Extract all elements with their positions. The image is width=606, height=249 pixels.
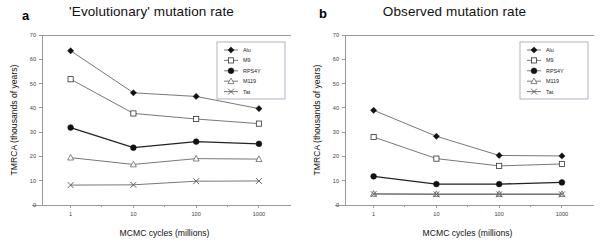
y-tick-label: 20 xyxy=(333,153,339,159)
legend-item-label: RPS4Y xyxy=(546,68,564,74)
x-tick-label: 1000 xyxy=(253,211,265,217)
data-point-marker-diamond xyxy=(559,153,565,159)
data-point-marker-square xyxy=(371,134,376,139)
y-tick-label: 60 xyxy=(333,56,339,62)
panel-a: a 'Evolutionary' mutation rate 010203040… xyxy=(0,0,303,249)
series-rps4y xyxy=(371,173,565,187)
series-m9 xyxy=(371,134,565,168)
series-m119 xyxy=(371,191,565,197)
legend-item-label: Alu xyxy=(243,47,251,53)
y-tick-label: 0 xyxy=(33,202,36,208)
data-point-marker-diamond xyxy=(193,93,199,99)
series-line xyxy=(71,128,259,148)
data-point-marker-circle xyxy=(130,145,136,151)
x-tick-label: 1000 xyxy=(556,211,568,217)
y-axis-ticks: 010203040506070 xyxy=(333,32,345,208)
series-alu xyxy=(371,107,566,159)
data-point-marker-square xyxy=(434,156,439,161)
figure-two-panel-line-charts: a 'Evolutionary' mutation rate 010203040… xyxy=(0,0,606,249)
legend-item: RPS4Y xyxy=(527,68,564,74)
data-point-marker-circle xyxy=(371,173,377,179)
legend-item-label: Tat xyxy=(546,89,554,95)
data-point-marker-diamond xyxy=(130,90,136,96)
data-point-marker-square xyxy=(559,161,564,166)
x-axis-ticks: 1101001000 xyxy=(69,205,265,217)
legend-item-label: M9 xyxy=(243,57,251,63)
series-line xyxy=(374,137,562,166)
legend-item-label: Alu xyxy=(546,47,554,53)
y-tick-label: 10 xyxy=(30,178,36,184)
y-tick-label: 70 xyxy=(30,32,36,38)
data-point-marker-circle xyxy=(68,125,74,131)
y-tick-label: 10 xyxy=(333,178,339,184)
legend: AluM9RPS4YM119Tat xyxy=(217,42,285,99)
series-tat xyxy=(68,178,262,188)
legend-item-label: RPS4Y xyxy=(243,68,261,74)
y-axis-ticks: 010203040506070 xyxy=(30,32,42,208)
data-point-marker-circle xyxy=(496,181,502,187)
legend: AluM9RPS4YM119Tat xyxy=(520,42,588,99)
series-line xyxy=(71,181,259,185)
panel-b-plot: 0102030405060701101001000MCMC cycles (mi… xyxy=(303,0,606,249)
y-tick-label: 30 xyxy=(333,129,339,135)
y-tick-label: 30 xyxy=(30,129,36,135)
data-point-marker-diamond xyxy=(371,107,377,113)
data-point-marker-square xyxy=(131,111,136,116)
legend-item-label: M119 xyxy=(546,78,559,84)
x-tick-label: 1 xyxy=(372,211,375,217)
series-rps4y xyxy=(68,125,262,151)
data-point-marker-square xyxy=(228,58,233,63)
x-tick-label: 10 xyxy=(130,211,136,217)
data-point-marker-circle xyxy=(531,68,537,74)
x-axis-ticks: 1101001000 xyxy=(372,205,568,217)
data-point-marker-circle xyxy=(193,139,199,145)
x-tick-label: 100 xyxy=(191,211,200,217)
data-point-marker-circle xyxy=(228,68,234,74)
x-tick-label: 1 xyxy=(69,211,72,217)
legend-item-label: Tat xyxy=(243,89,251,95)
panel-a-plot: 0102030405060701101001000MCMC cycles (mi… xyxy=(0,0,303,249)
data-point-marker-diamond xyxy=(496,152,502,158)
x-tick-label: 10 xyxy=(433,211,439,217)
y-tick-label: 0 xyxy=(336,202,339,208)
series-line xyxy=(71,158,259,165)
legend-item: RPS4Y xyxy=(224,68,261,74)
x-axis-title: MCMC cycles (millions) xyxy=(423,228,513,238)
data-point-marker-square xyxy=(68,77,73,82)
y-tick-label: 70 xyxy=(333,32,339,38)
y-axis-title: TMRCA (thousands of years) xyxy=(9,64,19,175)
panel-b: b Observed mutation rate 010203040506070… xyxy=(303,0,606,249)
data-point-marker-diamond xyxy=(68,48,74,54)
series-tat xyxy=(371,191,565,197)
series-m119 xyxy=(68,154,262,166)
data-point-marker-circle xyxy=(559,180,565,186)
x-tick-label: 100 xyxy=(494,211,503,217)
data-point-marker-diamond xyxy=(256,105,262,111)
y-tick-label: 50 xyxy=(333,81,339,87)
y-tick-label: 60 xyxy=(30,56,36,62)
y-tick-label: 40 xyxy=(30,105,36,111)
data-point-marker-triangle xyxy=(193,155,199,161)
data-point-marker-circle xyxy=(433,181,439,187)
data-point-marker-square xyxy=(497,163,502,168)
data-point-marker-square xyxy=(256,121,261,126)
data-point-marker-square xyxy=(194,116,199,121)
data-point-marker-square xyxy=(531,58,536,63)
legend-item-label: M9 xyxy=(546,57,554,63)
y-tick-label: 20 xyxy=(30,153,36,159)
series-line xyxy=(374,110,562,156)
y-tick-label: 40 xyxy=(333,105,339,111)
y-tick-label: 50 xyxy=(30,81,36,87)
legend-item-label: M119 xyxy=(243,78,256,84)
data-point-marker-circle xyxy=(256,141,262,147)
x-axis-title: MCMC cycles (millions) xyxy=(120,228,210,238)
data-point-marker-triangle xyxy=(68,154,74,160)
series-line xyxy=(374,176,562,184)
data-point-marker-diamond xyxy=(433,133,439,139)
y-axis-title: TMRCA (thousands of years) xyxy=(312,64,322,175)
